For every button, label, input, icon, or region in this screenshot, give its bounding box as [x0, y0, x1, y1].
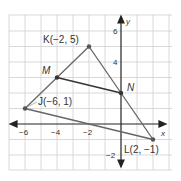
point-j [23, 106, 27, 110]
x-axis-right-arrow-icon [159, 121, 166, 127]
point-k [87, 44, 91, 48]
x-axis-label: x [160, 129, 166, 138]
y-axis-up-arrow-icon [118, 16, 124, 23]
point-m [55, 75, 59, 79]
x-tick-label: −6 [19, 128, 29, 137]
point-l [151, 137, 155, 141]
y-axis-down-arrow-icon [118, 160, 124, 167]
point-n [119, 91, 123, 95]
y-tick-label: 6 [113, 27, 118, 36]
point-label-n: N [127, 82, 135, 93]
graph-svg: x y −6 −4 −2 6 4 −2 K(−2, 5) J(−6, 1) [0, 0, 181, 181]
y-tick-label: −2 [106, 151, 116, 160]
y-axis-label: y [125, 17, 131, 26]
point-label-k: K(−2, 5) [43, 34, 79, 45]
point-label-m: M [42, 65, 51, 76]
point-label-j: J(−6, 1) [38, 96, 72, 107]
point-label-l: L(2, −1) [124, 144, 159, 155]
coordinate-plane-diagram: x y −6 −4 −2 6 4 −2 K(−2, 5) J(−6, 1) [0, 0, 181, 181]
x-tick-label: −2 [83, 128, 93, 137]
y-tick-label: 4 [113, 58, 118, 67]
x-tick-label: −4 [51, 128, 61, 137]
x-axis-left-arrow-icon [10, 121, 17, 127]
